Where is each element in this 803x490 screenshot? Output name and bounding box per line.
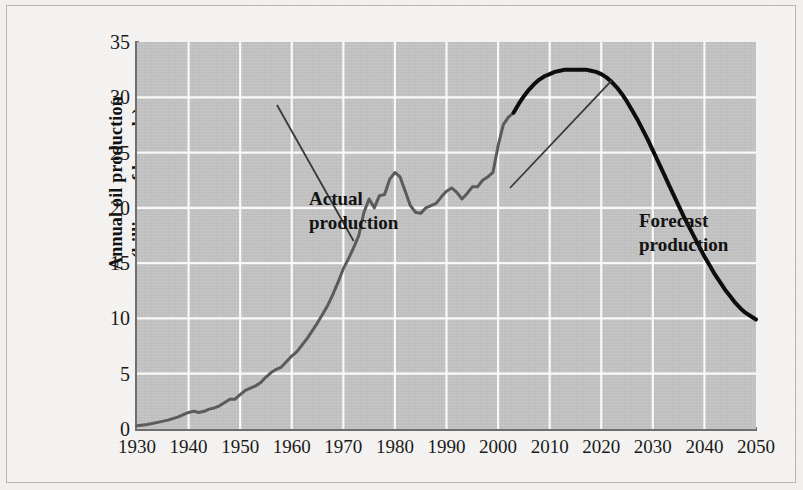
annotation-forecast-line-1: Forecast	[639, 209, 728, 233]
plot-area: Actual production Forecast production	[137, 42, 756, 429]
y-tick-15: 15	[90, 253, 130, 273]
annotation-actual-production: Actual production	[309, 187, 398, 235]
y-tick-10: 10	[90, 308, 130, 328]
x-tick-1930: 1930	[118, 436, 156, 458]
x-tick-1970: 1970	[324, 436, 362, 458]
x-tick-1950: 1950	[221, 436, 259, 458]
x-tick-1940: 1940	[170, 436, 208, 458]
y-tick-30: 30	[90, 87, 130, 107]
y-tick-20: 20	[90, 198, 130, 218]
annotation-forecast-production: Forecast production	[639, 209, 728, 257]
x-tick-2040: 2040	[685, 436, 723, 458]
figure-page: Annual oil production (billions of barre…	[0, 0, 803, 490]
annotation-forecast-line-2: production	[639, 233, 728, 257]
y-tick-35: 35	[90, 32, 130, 52]
x-tick-1960: 1960	[273, 436, 311, 458]
x-tick-2030: 2030	[634, 436, 672, 458]
annotation-actual-line-2: production	[309, 211, 398, 235]
x-tick-1980: 1980	[376, 436, 414, 458]
leader-line-1	[510, 81, 612, 188]
x-tick-1990: 1990	[428, 436, 466, 458]
y-tick-5: 5	[90, 364, 130, 384]
x-tick-2020: 2020	[582, 436, 620, 458]
annotation-actual-line-1: Actual	[309, 187, 398, 211]
x-tick-2000: 2000	[479, 436, 517, 458]
y-tick-25: 25	[90, 143, 130, 163]
x-tick-2050: 2050	[737, 436, 775, 458]
y-axis-tick-labels: 05101520253035	[86, 42, 130, 429]
x-axis-tick-labels: 1930194019501960197019801990200020102020…	[137, 436, 756, 466]
x-tick-2010: 2010	[531, 436, 569, 458]
